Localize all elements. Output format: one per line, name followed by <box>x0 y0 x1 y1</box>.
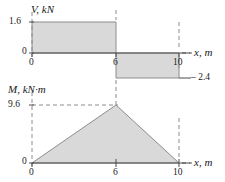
shear-value-1p6-label: 1.6 <box>9 17 21 27</box>
shear-xtick-label-10: 10 <box>173 58 183 68</box>
moment-zero-label: 0 <box>22 157 27 167</box>
moment-xtick-label-0: 0 <box>29 168 34 178</box>
shear-xtick-label-0: 0 <box>29 58 34 68</box>
moment-value-9p6-label: 9.6 <box>8 100 20 110</box>
shear-y-axis-title: V, kN <box>31 4 54 15</box>
shear-force-diagram <box>29 10 192 78</box>
shear-negative-value-label: – 2.4 <box>191 73 210 83</box>
figure-root: V, kN 1.6 0 0 6 10 x, m – 2.4 M, kN·m 9.… <box>0 0 225 182</box>
moment-area <box>32 105 179 163</box>
shear-positive-area <box>32 22 116 53</box>
moment-y-axis-title: M, kN·m <box>8 84 46 95</box>
moment-x-axis-title: x, m <box>194 157 212 168</box>
moment-xtick-label-6: 6 <box>113 168 118 178</box>
shear-negative-area <box>116 53 179 78</box>
shear-zero-label: 0 <box>22 47 27 57</box>
shear-x-axis-title: x, m <box>194 47 212 58</box>
shear-xtick-label-6: 6 <box>113 58 118 68</box>
bending-moment-diagram <box>29 80 192 167</box>
moment-xtick-label-10: 10 <box>173 168 183 178</box>
